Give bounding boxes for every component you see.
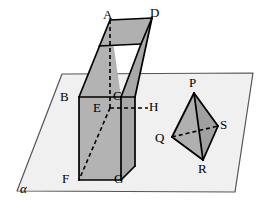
vertex-label-E: E bbox=[93, 101, 101, 114]
vertex-label-D: D bbox=[150, 6, 159, 19]
vertex-label-B: B bbox=[60, 90, 69, 103]
vertex-label-Q: Q bbox=[155, 131, 164, 144]
vertex-label-H: H bbox=[149, 100, 158, 113]
vertex-label-S: S bbox=[220, 118, 227, 131]
geometry-figure: A D B C E H F G P Q S R α bbox=[0, 0, 270, 210]
vertex-label-G: G bbox=[114, 172, 123, 185]
vertex-label-A: A bbox=[103, 8, 112, 21]
geometry-canvas bbox=[0, 0, 270, 210]
vertex-label-P: P bbox=[189, 76, 196, 89]
plane-label-alpha: α bbox=[20, 182, 27, 195]
vertex-label-C: C bbox=[113, 89, 122, 102]
vertex-label-R: R bbox=[198, 162, 207, 175]
vertex-label-F: F bbox=[62, 172, 69, 185]
